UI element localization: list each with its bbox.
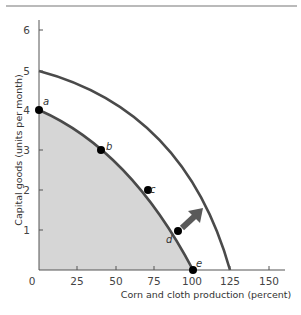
svg-text:5: 5 — [23, 65, 30, 77]
svg-text:4: 4 — [23, 104, 30, 116]
svg-text:b: b — [106, 141, 112, 152]
svg-text:150: 150 — [259, 275, 279, 287]
svg-text:3: 3 — [23, 144, 30, 156]
point-d — [174, 227, 182, 235]
svg-text:50: 50 — [109, 275, 122, 287]
svg-text:100: 100 — [182, 275, 202, 287]
point-b — [97, 146, 105, 154]
ppf-chart: 6 5 4 3 2 1 0 25 50 75 100 125 150 Corn … — [0, 0, 301, 315]
svg-text:1: 1 — [23, 224, 30, 236]
svg-text:a: a — [43, 96, 49, 107]
svg-text:75: 75 — [147, 275, 160, 287]
svg-text:0: 0 — [29, 275, 36, 287]
shaded-attainable-region — [39, 110, 193, 270]
svg-text:25: 25 — [70, 275, 83, 287]
svg-text:6: 6 — [23, 24, 30, 36]
svg-text:e: e — [196, 258, 202, 269]
svg-text:c: c — [150, 184, 156, 195]
svg-text:125: 125 — [220, 275, 240, 287]
svg-text:2: 2 — [23, 184, 30, 196]
outward-shift-arrow-icon — [182, 208, 203, 228]
y-axis-label: Capital goods (units per month) — [13, 74, 24, 225]
x-axis-label: Corn and cloth production (percent) — [121, 289, 291, 300]
x-tick-labels: 0 25 50 75 100 125 150 — [29, 275, 279, 287]
svg-text:d: d — [166, 234, 173, 245]
y-tick-labels: 6 5 4 3 2 1 — [23, 24, 30, 236]
point-a — [35, 106, 43, 114]
